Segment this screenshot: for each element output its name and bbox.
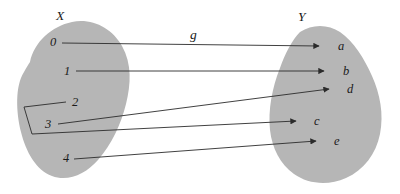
- set-y-blob: [269, 26, 381, 183]
- function-label-g: g: [190, 28, 197, 42]
- domain-element-3: 3: [45, 118, 51, 131]
- codomain-element-a: a: [338, 40, 344, 53]
- codomain-element-c: c: [314, 115, 320, 128]
- domain-element-1: 1: [64, 65, 70, 78]
- codomain-element-e: e: [334, 135, 340, 148]
- codomain-element-b: b: [343, 65, 349, 78]
- domain-element-0: 0: [50, 36, 56, 49]
- set-label-x: X: [56, 9, 64, 23]
- domain-element-4: 4: [63, 152, 69, 165]
- diagram-canvas: [0, 0, 400, 194]
- set-label-y: Y: [298, 10, 306, 24]
- domain-element-2: 2: [72, 96, 78, 109]
- codomain-element-d: d: [347, 83, 353, 96]
- mapping-diagram: X Y g 0 1 2 3 4 a b d c e: [0, 0, 400, 194]
